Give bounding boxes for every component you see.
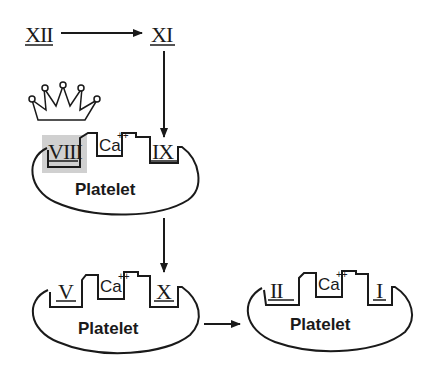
factor-xi: XI	[150, 22, 175, 47]
svg-text:++: ++	[336, 269, 348, 280]
svg-text:Platelet: Platelet	[75, 180, 136, 199]
svg-text:++: ++	[118, 271, 130, 282]
svg-text:Platelet: Platelet	[290, 315, 351, 334]
factor-xii: XII	[25, 22, 53, 47]
svg-text:++: ++	[117, 130, 129, 141]
svg-text:XII: XII	[25, 22, 53, 47]
platelet-2: V Ca ++ X Platelet	[33, 271, 199, 353]
svg-text:Platelet: Platelet	[78, 319, 139, 338]
coagulation-diagram: XII XI VIII Ca ++ IX Platelet V Ca ++ X	[0, 0, 438, 382]
platelet-1: VIII Ca ++ IX Platelet	[32, 130, 198, 215]
svg-text:XI: XI	[151, 22, 173, 47]
crown-icon	[29, 82, 100, 120]
platelet-3: II Ca ++ I Platelet	[248, 269, 412, 351]
